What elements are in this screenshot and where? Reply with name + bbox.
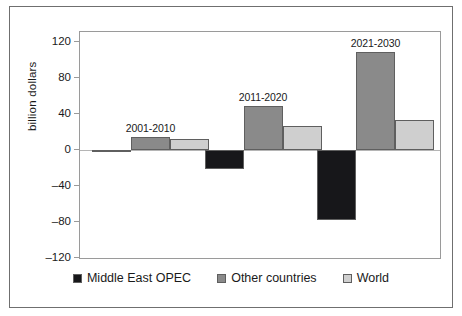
legend-swatch-icon — [73, 274, 82, 283]
bar-other-countries-2011-2020 — [244, 106, 283, 150]
legend-item-world: World — [343, 271, 389, 285]
group-label: 2021-2030 — [351, 37, 400, 49]
legend-label: World — [357, 271, 389, 285]
y-tick-label: –120 — [45, 251, 71, 263]
chart-title — [10, 0, 452, 5]
bar-world-2011-2020 — [283, 126, 322, 150]
group-label: 2011-2020 — [239, 91, 288, 103]
bar-world-2021-2030 — [395, 120, 434, 150]
y-tick-label: –40 — [52, 179, 71, 191]
y-axis-labels: 12080400–40–80–120 — [10, 7, 79, 309]
zero-baseline — [80, 150, 440, 151]
y-tick-label: 80 — [58, 71, 71, 83]
bar-other-countries-2021-2030 — [356, 52, 395, 150]
plot-area: 2001-20102011-20202021-2030 — [79, 31, 441, 259]
bar-middle-east-opec-2001-2010 — [92, 150, 131, 152]
figure-frame: 12080400–40–80–120 billion dollars 2001-… — [9, 6, 453, 308]
bar-world-2001-2010 — [170, 139, 209, 150]
bar-middle-east-opec-2021-2030 — [317, 150, 356, 220]
legend-item-middle-east-opec: Middle East OPEC — [73, 271, 191, 285]
y-tick-label: 40 — [58, 107, 71, 119]
legend-label: Middle East OPEC — [87, 271, 191, 285]
y-tick-label: 120 — [52, 35, 71, 47]
chart-legend: Middle East OPECOther countriesWorld — [10, 271, 452, 285]
legend-item-other-countries: Other countries — [217, 271, 316, 285]
bar-middle-east-opec-2011-2020 — [205, 150, 244, 169]
legend-swatch-icon — [343, 274, 352, 283]
bar-other-countries-2001-2010 — [131, 137, 170, 150]
y-tick-label: –80 — [52, 215, 71, 227]
legend-swatch-icon — [217, 274, 226, 283]
y-tick-label: 0 — [65, 143, 71, 155]
legend-label: Other countries — [231, 271, 316, 285]
y-axis-title: billion dollars — [26, 62, 38, 131]
group-label: 2001-2010 — [126, 122, 175, 134]
